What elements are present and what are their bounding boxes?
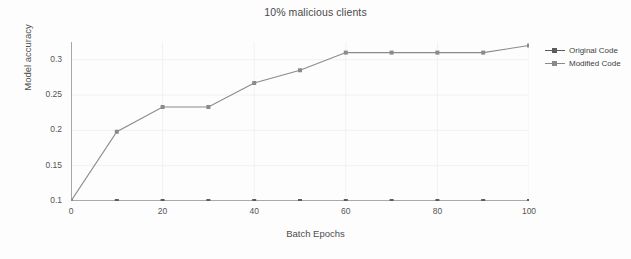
x-axis-label: Batch Epochs xyxy=(0,228,631,239)
chart-figure: 10% malicious clients Model accuracy Bat… xyxy=(0,0,631,259)
chart-legend: Original CodeModified Code xyxy=(545,44,621,70)
x-tick-label: 100 xyxy=(514,206,544,216)
data-point-marker xyxy=(390,199,394,201)
data-point-marker xyxy=(161,105,165,109)
x-tick-label: 20 xyxy=(148,206,178,216)
data-point-marker xyxy=(71,199,73,201)
data-point-marker xyxy=(527,44,529,48)
data-point-marker xyxy=(206,199,210,201)
data-point-marker xyxy=(390,51,394,55)
y-tick-label: 0.25 xyxy=(30,89,62,99)
chart-canvas xyxy=(71,42,529,201)
legend-swatch-icon xyxy=(545,46,565,56)
data-point-marker xyxy=(344,51,348,55)
data-point-marker xyxy=(115,199,119,201)
legend-label: Original Code xyxy=(569,46,618,55)
data-point-marker xyxy=(435,51,439,55)
data-point-marker xyxy=(298,199,302,201)
data-point-marker xyxy=(481,199,485,201)
x-tick-label: 60 xyxy=(331,206,361,216)
gridlines xyxy=(71,42,529,201)
series-1 xyxy=(71,199,529,201)
y-tick-label: 0.2 xyxy=(30,124,62,134)
plot-area xyxy=(71,42,529,201)
data-point-marker xyxy=(115,130,119,134)
data-point-marker xyxy=(161,199,165,201)
data-series-group xyxy=(71,44,529,201)
data-point-marker xyxy=(527,199,529,201)
y-tick-label: 0.1 xyxy=(30,195,62,205)
y-tick-label: 0.3 xyxy=(30,54,62,64)
chart-title: 10% malicious clients xyxy=(0,6,631,18)
legend-label: Modified Code xyxy=(569,59,621,68)
data-point-marker xyxy=(206,105,210,109)
x-tick-label: 0 xyxy=(56,206,86,216)
data-point-marker xyxy=(344,199,348,201)
data-point-marker xyxy=(298,68,302,72)
data-point-marker xyxy=(435,199,439,201)
legend-item-2[interactable]: Modified Code xyxy=(545,57,621,70)
data-point-marker xyxy=(481,51,485,55)
series-2 xyxy=(71,44,529,201)
legend-item-1[interactable]: Original Code xyxy=(545,44,621,57)
data-point-marker xyxy=(252,199,256,201)
legend-swatch-icon xyxy=(545,59,565,69)
x-tick-label: 80 xyxy=(422,206,452,216)
x-tick-label: 40 xyxy=(239,206,269,216)
data-point-marker xyxy=(252,81,256,85)
y-tick-label: 0.15 xyxy=(30,160,62,170)
